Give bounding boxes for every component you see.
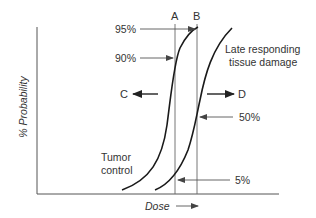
late-tissue-label-line1: Late responding — [225, 43, 300, 55]
label-c: C — [120, 88, 128, 100]
late-tissue-label-line2: tissue damage — [229, 56, 297, 68]
label-95: 95% — [115, 23, 136, 35]
x-axis-label: Dose — [145, 200, 170, 212]
y-axis-label: % Probability — [17, 76, 29, 138]
label-d: D — [238, 88, 246, 100]
dose-response-diagram: A B 95% 90% C D 50% 5% Late responding t… — [0, 0, 316, 218]
label-50: 50% — [239, 111, 260, 123]
tumor-control-label-line2: control — [101, 164, 133, 176]
label-5: 5% — [235, 174, 250, 186]
label-a: A — [171, 10, 179, 22]
label-b: B — [193, 10, 200, 22]
tumor-control-label-line1: Tumor — [101, 151, 131, 163]
label-90: 90% — [115, 52, 136, 64]
late-tissue-curve — [155, 28, 232, 190]
